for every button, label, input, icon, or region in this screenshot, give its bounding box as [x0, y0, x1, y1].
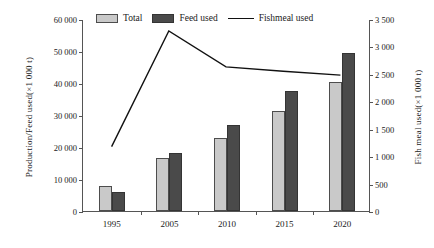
y2-tick-label: 3 500: [375, 16, 394, 25]
x-tick-mark: [256, 211, 257, 215]
y-tick-mark: [79, 212, 83, 213]
x-tick-label: 1995: [103, 219, 121, 229]
chart-container: Production/Feed used(×1 000 t) Fish meal…: [0, 0, 434, 248]
y2-tick-mark: [369, 157, 373, 158]
y-axis-right-title: Fish meal used(×1 000 t): [413, 32, 423, 202]
plot-area: 010 00020 00030 00040 00050 00060 000 05…: [82, 20, 370, 212]
fishmeal-line-series: [83, 20, 369, 211]
x-tick-mark: [198, 211, 199, 215]
y-axis-left-title: Production/Feed used(×1 000 t): [24, 32, 34, 202]
y-tick-label: 40 000: [54, 80, 77, 89]
y2-tick-mark: [369, 212, 373, 213]
line-black-icon: [228, 18, 254, 19]
x-tick-label: 2005: [160, 219, 178, 229]
x-tick-label: 2010: [218, 219, 236, 229]
x-tick-label: 2015: [276, 219, 294, 229]
y2-tick-mark: [369, 75, 373, 76]
y2-tick-label: 2 000: [375, 98, 394, 107]
y-tick-label: 10 000: [54, 176, 77, 185]
x-tick-mark: [141, 211, 142, 215]
y2-tick-label: 1 000: [375, 153, 394, 162]
y2-tick-mark: [369, 47, 373, 48]
y2-tick-mark: [369, 20, 373, 21]
x-tick-mark: [313, 211, 314, 215]
y2-tick-mark: [369, 130, 373, 131]
y2-tick-label: 2 500: [375, 71, 394, 80]
y2-tick-label: 3 000: [375, 43, 394, 52]
y2-tick-label: 500: [375, 180, 388, 189]
y-tick-label: 50 000: [54, 48, 77, 57]
x-tick-label: 2020: [333, 219, 351, 229]
y-tick-label: 30 000: [54, 112, 77, 121]
y2-tick-mark: [369, 102, 373, 103]
y2-tick-label: 0: [375, 208, 379, 217]
y-tick-label: 60 000: [54, 16, 77, 25]
y2-tick-mark: [369, 185, 373, 186]
y-tick-label: 0: [73, 208, 77, 217]
y-tick-label: 20 000: [54, 144, 77, 153]
y2-tick-label: 1 500: [375, 125, 394, 134]
